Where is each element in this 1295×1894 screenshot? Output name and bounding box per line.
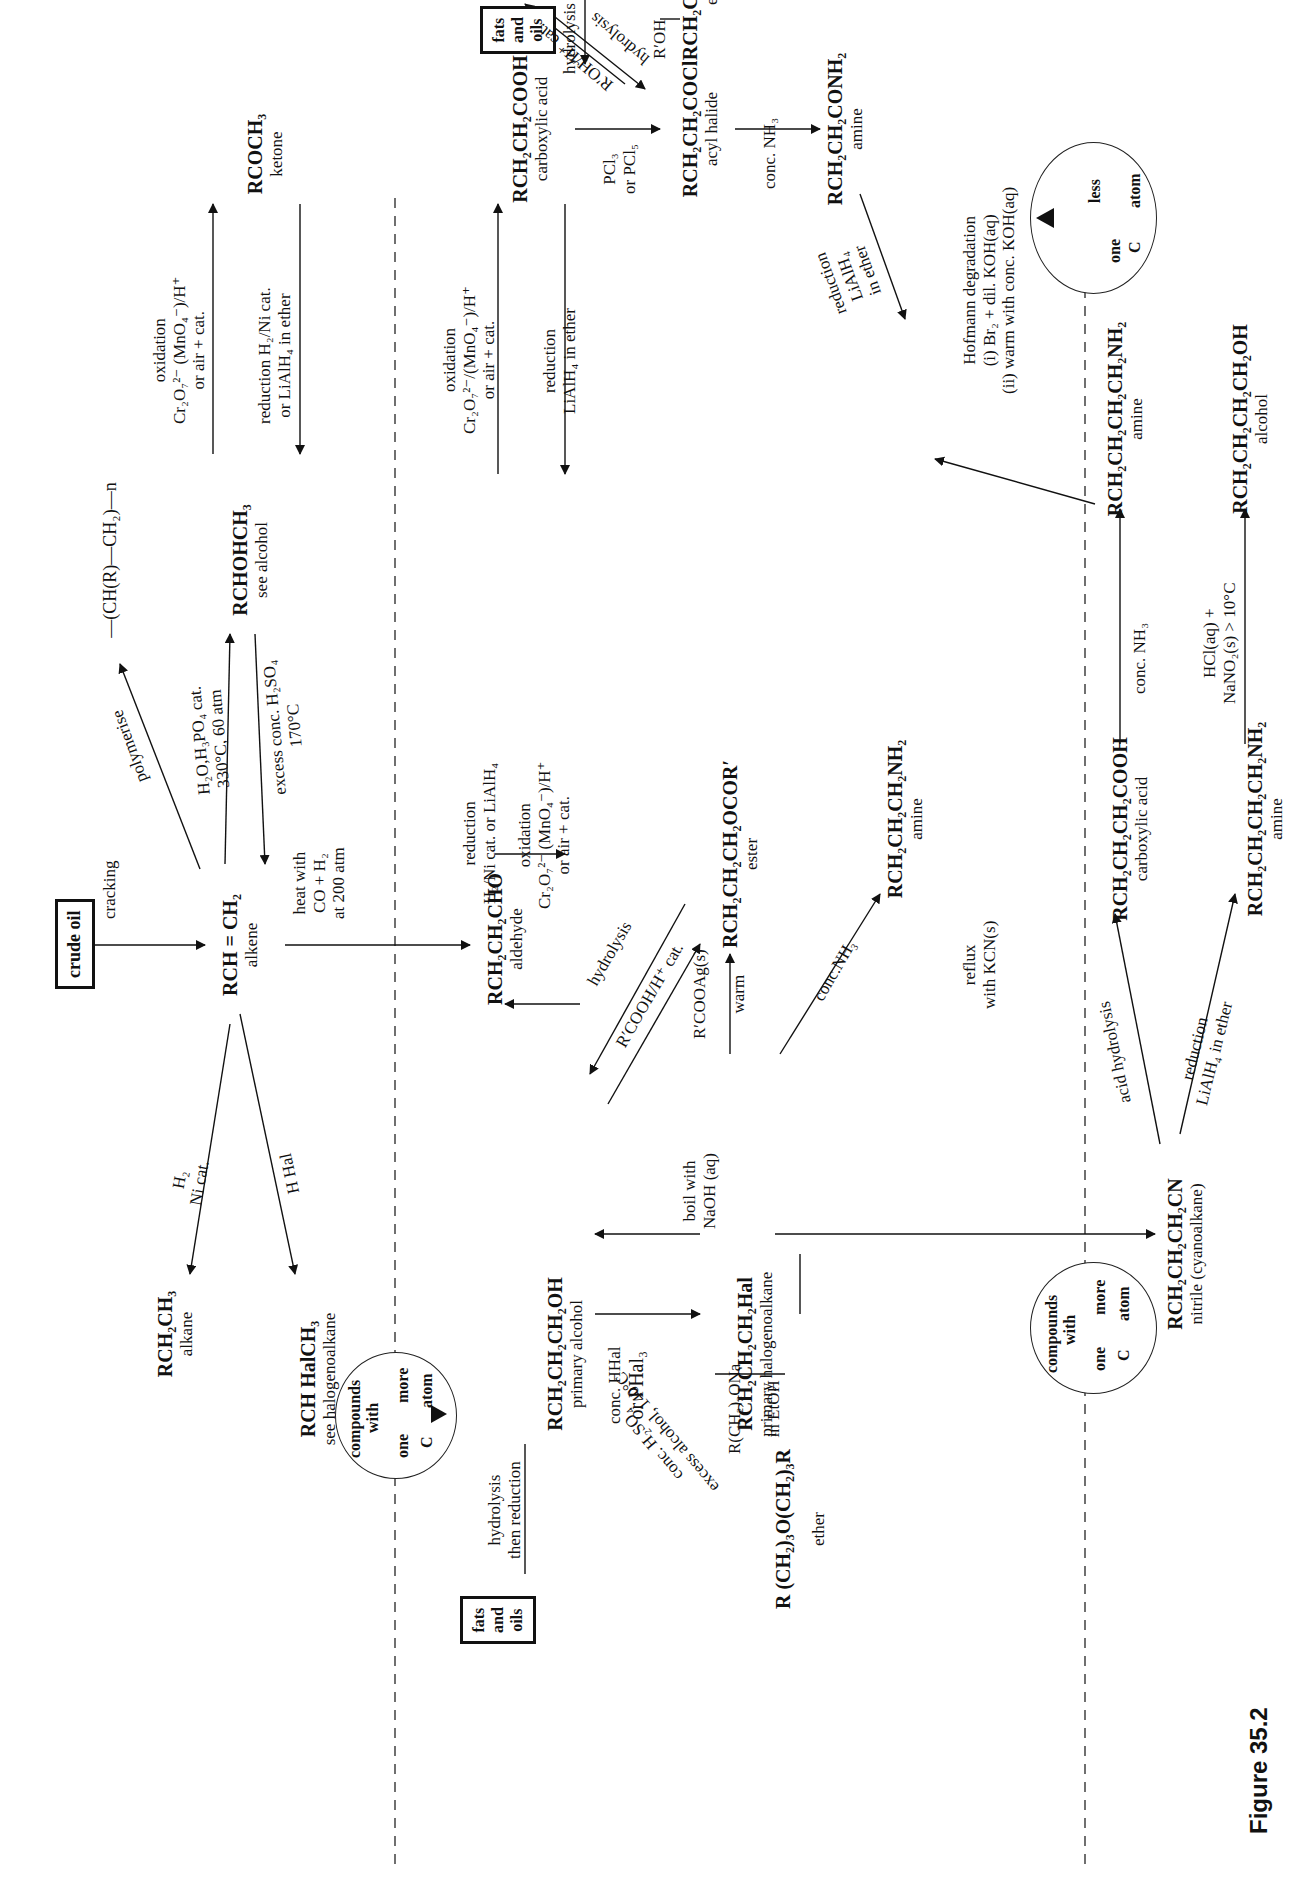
hydroformylation-line1: heat with bbox=[290, 852, 309, 915]
node-ether: R (CH₂)₃O(CH₂)₃R ether bbox=[772, 1449, 829, 1609]
legend-more-carbon: compounds with one more C atom bbox=[335, 1352, 457, 1479]
and-label: and bbox=[489, 1607, 506, 1633]
alkane-formula: RCH₂CH₃ bbox=[154, 1291, 177, 1377]
ketone-formula: RCOCH₃ bbox=[244, 114, 267, 194]
alc-red-line1: reduction bbox=[460, 801, 479, 865]
node-amide: RCH₂CH₂CONH₂ amine bbox=[824, 53, 867, 205]
ketone-red-line2: or LiAlH₄ in ether bbox=[275, 293, 294, 417]
label-halo-to-alcohol: boil with NaOH (aq) bbox=[680, 1153, 719, 1229]
legend-more-top: compounds bbox=[1043, 1295, 1061, 1373]
fats-label: fats bbox=[490, 18, 507, 43]
nitrile-class: nitrile (cyanoalkane) bbox=[1187, 1178, 1207, 1329]
williamson-line1: R(CH₂)₃ONa bbox=[725, 1364, 744, 1454]
and-label: and bbox=[509, 17, 526, 43]
node-ester-top: RCH₂CH₂CO₂R′ ester bbox=[679, 0, 722, 60]
diazotisation-line2: NaNO₂(s) > 10°C bbox=[1220, 583, 1239, 704]
primary-alcohol-class: primary alcohol bbox=[567, 1277, 587, 1431]
hydroformylation-line2: CO + H₂ bbox=[310, 853, 329, 913]
alc-ox-line2: Cr₂O₇²⁻ (MnO₄⁻)/H⁺ bbox=[535, 761, 554, 909]
label-ketone-oxidation: oxidation Cr₂O₇²⁻ (MnO₄⁻)/H⁺ or air + ca… bbox=[150, 276, 209, 424]
alkene-formula: RCH = CH₂ bbox=[219, 894, 242, 996]
amine-low-class: amine bbox=[1267, 722, 1287, 916]
amide-formula: RCH₂CH₂CONH₂ bbox=[824, 53, 847, 205]
label-williamson: R(CH₂)₃ONa in EtOH bbox=[725, 1364, 784, 1454]
alcohol-top-right-formula: RCH₂CH₂CH₂CH₂OH bbox=[1229, 324, 1252, 514]
label-acid-to-amine: conc. NH₃ bbox=[1130, 623, 1150, 694]
label-silver-salt: R′COOAg(s) warm bbox=[690, 949, 749, 1039]
node-polymer: —(CH(R)—CH₂)—n bbox=[100, 482, 121, 637]
label-fats-to-alcohol: hydrolysis then reduction bbox=[485, 1461, 524, 1559]
ether-class: ether bbox=[809, 1449, 829, 1609]
amide-class: amine bbox=[847, 53, 867, 205]
nitrile-formation-line2: with KCN(s) bbox=[980, 921, 999, 1009]
label-acid-to-acyl: PCl₃ or PCl₅ bbox=[600, 144, 639, 194]
ester-top-formula: RCH₂CH₂CO₂R′ bbox=[679, 0, 702, 60]
alc-ox-line3: or air + cat. bbox=[554, 796, 573, 875]
ketone-ox-line2: Cr₂O₇²⁻ (MnO₄⁻)/H⁺ bbox=[170, 276, 189, 424]
ald-ox-line1: oxidation bbox=[440, 328, 459, 392]
hofmann-line1: Hofmann degradation bbox=[960, 216, 979, 365]
node-ester-mid: RCH₂CH₂CH₂OCOR′ ester bbox=[719, 760, 762, 948]
node-carboxylic-acid: RCH₂CH₂COOH carboxylic acid bbox=[509, 55, 552, 203]
sec-alcohol-class: see alcohol bbox=[252, 504, 272, 616]
label-ketone-reduction: reduction H₂/Ni cat. or LiAlH₄ in ether bbox=[255, 287, 294, 424]
acid-red-line1: reduction bbox=[540, 329, 559, 393]
fats-label: fats bbox=[470, 1608, 487, 1633]
figure-caption: Figure 35.2 bbox=[1245, 1707, 1273, 1834]
amine-mid-class: amine bbox=[907, 740, 927, 898]
acid-to-acyl-line2: or PCl₅ bbox=[620, 144, 639, 194]
node-ketone: RCOCH₃ ketone bbox=[244, 114, 287, 194]
legend-more-atom: atom bbox=[1115, 1286, 1133, 1321]
label-acid-reduction: reduction LiAlH₄ in ether bbox=[540, 308, 579, 414]
ether-formula: R (CH₂)₃O(CH₂)₃R bbox=[772, 1449, 795, 1609]
acid-low-class: carboxylic acid bbox=[1132, 737, 1152, 921]
amine-mid-formula: RCH₂CH₂CH₂NH₂ bbox=[884, 740, 907, 898]
node-halo-sec: RCH HalCH₃ see halogenoalkane bbox=[297, 1313, 340, 1446]
label-hydroformylation: heat with CO + H₂ at 200 atm bbox=[290, 847, 349, 919]
node-alkene: RCH = CH₂ alkene bbox=[219, 894, 262, 996]
nitrile-formula: RCH₂CH₂CH₂CN bbox=[1164, 1178, 1187, 1329]
hofmann-line3: (ii) warm with conc. KOH(aq) bbox=[999, 187, 1018, 394]
node-acid-low: RCH₂CH₂CH₂COOH carboxylic acid bbox=[1109, 737, 1152, 921]
crude-oil-label: crude oil bbox=[64, 911, 84, 979]
ketone-ox-line3: or air + cat. bbox=[189, 311, 208, 390]
fats-oils-box-bottom: fats and oils bbox=[460, 1596, 536, 1644]
legend-more-carbon-lower: compounds with one more C atom bbox=[1030, 1262, 1157, 1394]
label-aldehyde-oxidation: oxidation Cr₂O₇²⁻/(MnO₄⁻)/H⁺ or air + ca… bbox=[440, 286, 499, 434]
legend-more-mid: with bbox=[1061, 1315, 1079, 1345]
node-amine-low: RCH₂CH₂CH₂CH₂NH₂ amine bbox=[1244, 722, 1287, 916]
amine-top-right-formula: RCH₂CH₂CH₂CH₂NH₂ bbox=[1104, 322, 1127, 516]
ald-ox-line3: or air + cat. bbox=[479, 321, 498, 400]
alcohol-top-right-class: alcohol bbox=[1252, 324, 1272, 514]
ketone-red-line1: reduction H₂/Ni cat. bbox=[255, 287, 274, 424]
legend-less-carbon: one less C atom bbox=[1030, 142, 1157, 294]
legend-less-atom: atom bbox=[1126, 173, 1144, 208]
williamson-line2: in EtOH bbox=[764, 1380, 783, 1437]
polymer-formula: —(CH(R)—CH₂)—n bbox=[100, 482, 120, 637]
hofmann-line2: (i) Br₂ + dil. KOH(aq) bbox=[980, 214, 999, 366]
legend-more-c: C bbox=[1115, 1349, 1133, 1361]
node-nitrile: RCH₂CH₂CH₂CN nitrile (cyanoalkane) bbox=[1164, 1178, 1207, 1329]
crude-oil-box: crude oil bbox=[55, 900, 95, 990]
node-primary-alcohol: RCH₂CH₂CH₂OH primary alcohol bbox=[544, 1277, 587, 1431]
node-alcohol-top-right: RCH₂CH₂CH₂CH₂OH alcohol bbox=[1229, 324, 1272, 514]
ketone-class: ketone bbox=[267, 114, 287, 194]
label-diazotisation: HCl(aq) + NaNO₂(s) > 10°C bbox=[1200, 583, 1239, 704]
acid-low-formula: RCH₂CH₂CH₂COOH bbox=[1109, 737, 1132, 921]
legend-more-c: C bbox=[418, 1436, 436, 1448]
legend-more-one: one bbox=[394, 1434, 412, 1458]
dehydration-line2: 170°C bbox=[283, 703, 306, 748]
halo-to-alc-line2: NaOH (aq) bbox=[700, 1153, 719, 1229]
reaction-scheme-canvas: crude oil RCH = CH₂ alkene —(CH(R)—CH₂)—… bbox=[0, 0, 1295, 1894]
fats-to-alc-line2: then reduction bbox=[505, 1461, 524, 1559]
ester-mid-class: ester bbox=[742, 760, 762, 948]
legend-less-less: less bbox=[1086, 179, 1104, 203]
node-amine-top-right: RCH₂CH₂CH₂CH₂NH₂ amine bbox=[1104, 322, 1147, 516]
halo-to-alc-line1: boil with bbox=[680, 1161, 699, 1222]
silver-salt-line1: R′COOAg(s) bbox=[690, 949, 709, 1039]
node-sec-alcohol: RCHOHCH₃ see alcohol bbox=[229, 504, 272, 616]
nitrile-formation-line1: reflux bbox=[960, 945, 979, 986]
node-alkane: RCH₂CH₃ alkane bbox=[154, 1291, 197, 1377]
label-alcohol-oxidation: oxidation Cr₂O₇²⁻ (MnO₄⁻)/H⁺ or air + ca… bbox=[515, 761, 574, 909]
acyl-halide-class: acyl halide bbox=[702, 61, 722, 197]
